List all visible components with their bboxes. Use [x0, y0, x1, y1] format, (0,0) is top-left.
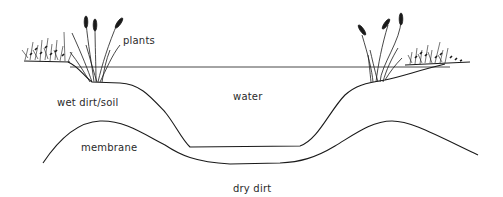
wet-soil-label: wet dirt/soil	[57, 97, 118, 108]
left-grass-tuft-icon	[22, 32, 72, 62]
plants-label: plants	[123, 35, 155, 46]
right-grass-tuft-icon	[405, 42, 470, 65]
membrane-label: membrane	[81, 142, 137, 153]
left-cattail-plants-icon	[70, 16, 124, 82]
right-cattail-plants-icon	[357, 13, 403, 82]
water-label: water	[233, 91, 263, 102]
dry-dirt-label: dry dirt	[233, 183, 271, 194]
